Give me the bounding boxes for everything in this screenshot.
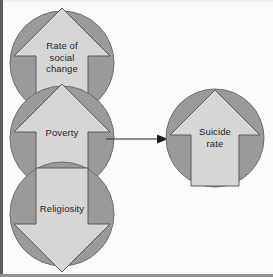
poverty-to-suicide-rate-arrow [106,135,168,144]
causal-diagram-figure: Rate of social change Poverty Religiosit… [0,0,273,277]
node-suicide-rate[interactable] [166,89,264,187]
diagram-canvas [0,0,273,277]
node-religiosity[interactable] [10,162,114,272]
